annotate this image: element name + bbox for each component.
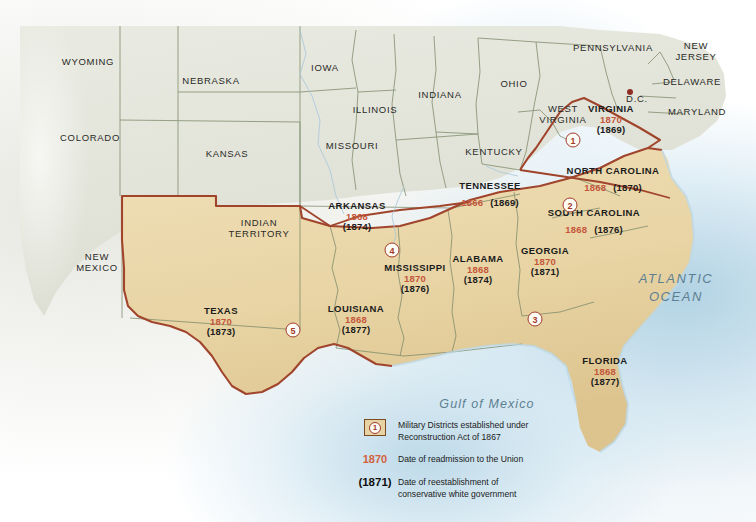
legend-admission-year: 1870: [352, 453, 398, 465]
legend-row: 1Military Districts established underRec…: [352, 418, 604, 443]
legend-district-circle: 1: [369, 422, 381, 434]
district-badge-1: 1: [566, 133, 581, 148]
legend-description: Military Districts established underReco…: [398, 418, 528, 443]
dc-marker-dot: [627, 89, 633, 95]
legend-restoration-year: (1871): [352, 476, 398, 488]
legend-description-line: Reconstruction Act of 1867: [398, 431, 528, 443]
district-badge-5: 5: [286, 323, 301, 338]
map-screenshot: WYOMINGNEBRASKAIOWAILLINOISINDIANAOHIOPE…: [0, 0, 756, 522]
legend-row: (1871)Date of reestablishment ofconserva…: [352, 475, 604, 500]
legend-description: Date of reestablishment ofconservative w…: [398, 475, 516, 500]
legend-description: Date of readmission to the Union: [398, 452, 523, 465]
legend-description-line: Date of reestablishment of: [398, 476, 516, 488]
legend-description-line: conservative white government: [398, 488, 516, 500]
legend-row: 1870Date of readmission to the Union: [352, 452, 604, 465]
legend-description-line: Date of readmission to the Union: [398, 453, 523, 465]
legend-key: (1871): [352, 475, 398, 488]
district-badge-3: 3: [528, 312, 543, 327]
district-badge-2: 2: [563, 198, 578, 213]
legend-district-swatch: 1: [364, 419, 386, 436]
map-legend: 1Military Districts established underRec…: [352, 418, 604, 509]
legend-description-line: Military Districts established under: [398, 419, 528, 431]
district-badge-4: 4: [385, 243, 400, 258]
legend-key: 1: [352, 418, 398, 436]
legend-key: 1870: [352, 452, 398, 465]
